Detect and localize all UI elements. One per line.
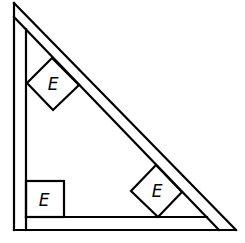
- lower-box-label: E: [152, 181, 163, 201]
- box-upper-hypotenuse: E: [27, 58, 79, 110]
- box-corner: E: [26, 181, 64, 217]
- box-lower-hypotenuse: E: [131, 165, 182, 217]
- triangle-frame-diagram: E E E: [0, 0, 245, 243]
- upper-box-label: E: [48, 74, 59, 94]
- corner-box-label: E: [39, 190, 50, 210]
